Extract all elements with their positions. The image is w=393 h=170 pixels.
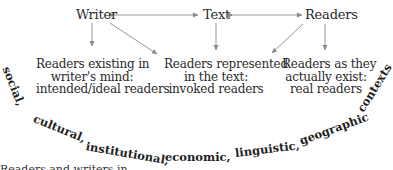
node-writer: Writer — [76, 8, 117, 21]
node-readers-label: Readers — [305, 7, 358, 22]
node-readers: Readers — [305, 8, 358, 21]
node-text-label: Text — [203, 7, 230, 22]
intended-line3: intended/ideal readers — [36, 83, 148, 96]
node-writer-label: Writer — [76, 7, 117, 22]
arrow-readers-invoked — [272, 24, 303, 53]
invoked-line3: invoked readers — [164, 83, 268, 96]
context-word-economic: economic, — [165, 150, 231, 164]
arrow-writer-invoked — [110, 23, 157, 54]
real-line1: Readers as they — [282, 58, 370, 71]
node-real-readers: Readers as they actually exist: real rea… — [282, 58, 370, 96]
node-intended-readers: Readers existing in writer's mind: inten… — [36, 58, 148, 96]
diagram-canvas: Writer Text Readers Readers existing in … — [0, 0, 393, 170]
node-invoked-readers: Readers represented in the text: invoked… — [164, 58, 268, 96]
clipped-caption: Readers and writers in — [0, 163, 128, 170]
intended-line1: Readers existing in — [36, 58, 148, 71]
node-text: Text — [203, 8, 230, 21]
real-line3: real readers — [282, 83, 370, 96]
invoked-line1: Readers represented — [164, 58, 268, 71]
